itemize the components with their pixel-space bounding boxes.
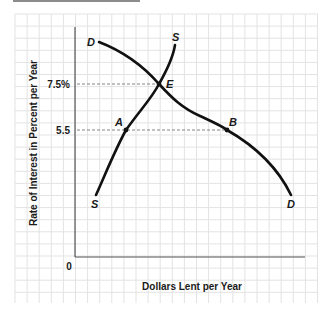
point-e [157, 82, 162, 87]
tick-label-5-5: 5.5 [56, 125, 70, 136]
origin-label: 0 [66, 261, 72, 272]
chart: D S S D E A B 7.5% 5.5 0 Dollars Lent pe… [0, 0, 327, 316]
label-d-top: D [87, 36, 95, 48]
y-axis-title: Rate of Interest in Percent per Year [28, 60, 39, 226]
point-a [124, 128, 129, 133]
label-e: E [166, 78, 174, 90]
point-b [225, 128, 230, 133]
x-axis-title: Dollars Lent per Year [142, 281, 242, 292]
label-b: B [229, 116, 237, 128]
label-a: A [114, 116, 123, 128]
label-d-bottom: D [287, 198, 295, 210]
grid [15, 14, 318, 303]
tick-label-7-5: 7.5% [47, 79, 70, 90]
demand-curve [99, 42, 291, 195]
label-s-bottom: S [91, 198, 99, 210]
label-s-top: S [172, 31, 180, 43]
